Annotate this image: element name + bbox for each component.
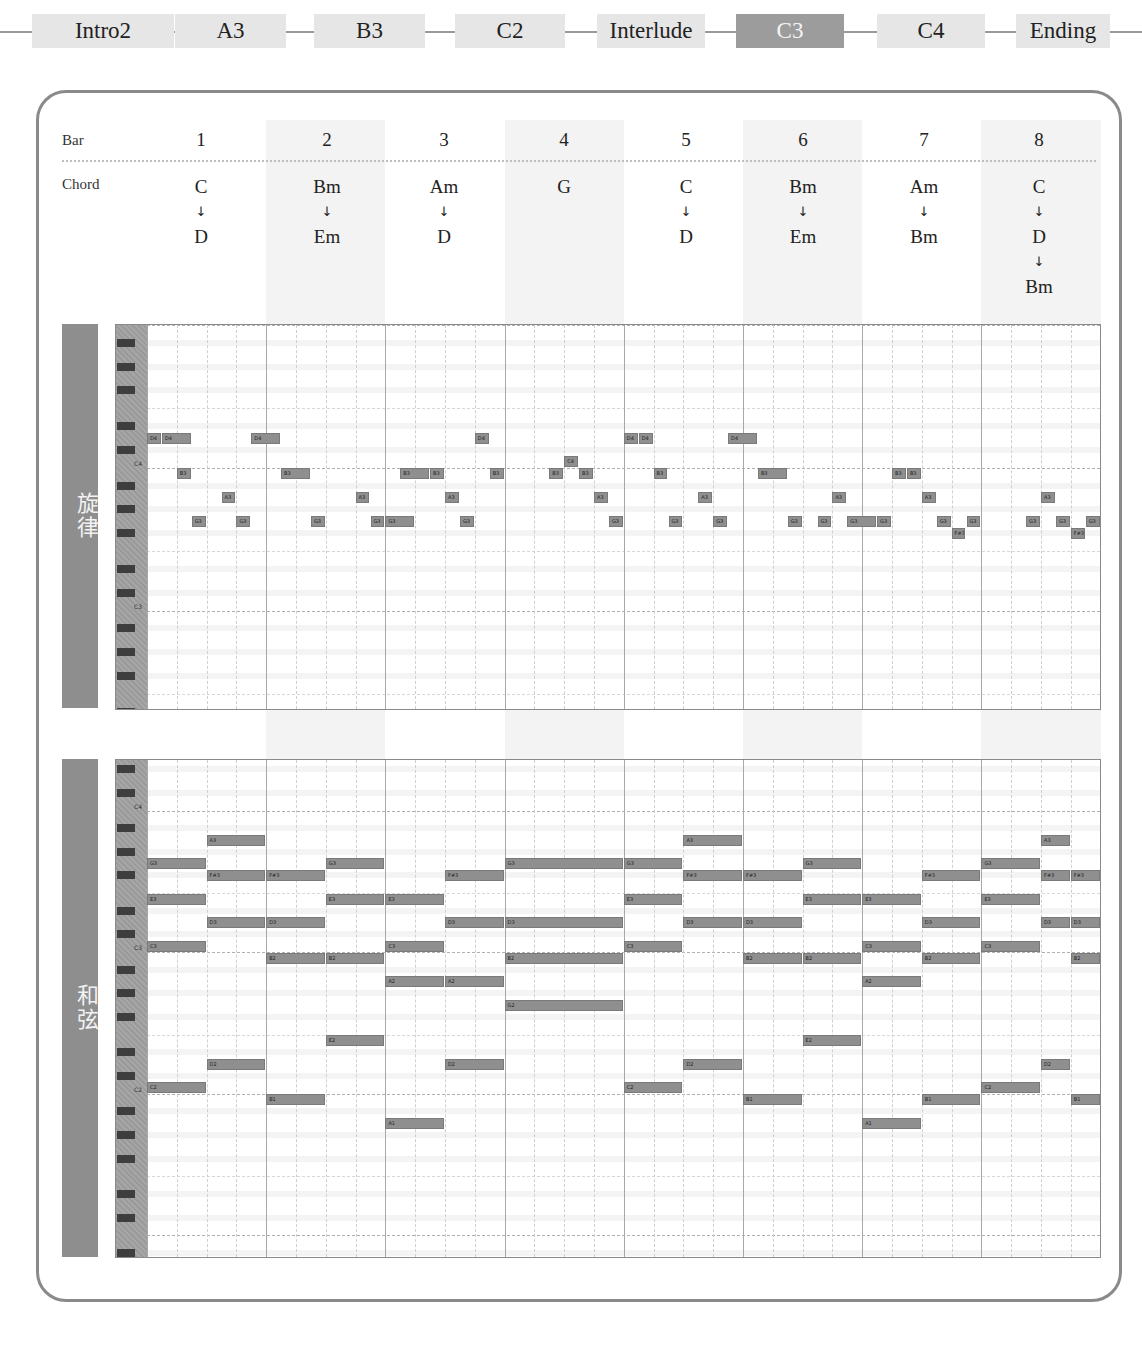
note-block[interactable]: B3 (549, 468, 563, 479)
note-block[interactable]: C2 (981, 1082, 1040, 1093)
note-block[interactable]: B3 (490, 468, 504, 479)
note-block[interactable]: E3 (326, 894, 385, 905)
note-block[interactable]: G3 (460, 516, 474, 527)
note-block[interactable]: E2 (803, 1035, 862, 1046)
note-block[interactable]: E3 (624, 894, 683, 905)
note-block[interactable]: F#3 (266, 870, 325, 881)
note-block[interactable]: A3 (683, 835, 742, 846)
note-block[interactable]: C3 (981, 941, 1040, 952)
note-block[interactable]: F#3 (1071, 870, 1100, 881)
note-block[interactable]: B2 (743, 953, 802, 964)
note-block[interactable]: D4 (162, 433, 191, 444)
note-block[interactable]: D4 (147, 433, 161, 444)
note-block[interactable]: F#3 (1071, 528, 1085, 539)
note-block[interactable]: B2 (1071, 953, 1100, 964)
section-c4[interactable]: C4 (877, 14, 985, 48)
note-block[interactable]: B3 (892, 468, 906, 479)
note-block[interactable]: G3 (1026, 516, 1040, 527)
note-block[interactable]: A3 (1041, 492, 1055, 503)
note-block[interactable]: D4 (624, 433, 638, 444)
note-block[interactable]: G3 (818, 516, 832, 527)
note-block[interactable]: B1 (266, 1094, 325, 1105)
note-block[interactable]: A3 (207, 835, 266, 846)
note-block[interactable]: B3 (400, 468, 429, 479)
note-block[interactable]: D2 (445, 1059, 504, 1070)
note-block[interactable]: G3 (713, 516, 727, 527)
section-intro2[interactable]: Intro2 (32, 14, 174, 48)
note-block[interactable]: G3 (192, 516, 206, 527)
note-block[interactable]: B1 (922, 1094, 981, 1105)
note-block[interactable]: G3 (385, 516, 414, 527)
note-block[interactable]: C4 (564, 456, 578, 467)
note-block[interactable]: F#3 (743, 870, 802, 881)
note-block[interactable]: B3 (281, 468, 310, 479)
note-block[interactable]: D2 (683, 1059, 742, 1070)
note-block[interactable]: A3 (698, 492, 712, 503)
note-block[interactable]: C3 (624, 941, 683, 952)
note-block[interactable]: B1 (743, 1094, 802, 1105)
note-block[interactable]: D3 (922, 917, 981, 928)
note-block[interactable]: F#3 (952, 528, 966, 539)
note-block[interactable]: A1 (385, 1118, 444, 1129)
note-block[interactable]: G3 (311, 516, 325, 527)
note-block[interactable]: G3 (788, 516, 802, 527)
note-block[interactable]: B2 (922, 953, 981, 964)
note-block[interactable]: G3 (803, 858, 862, 869)
note-block[interactable]: D2 (207, 1059, 266, 1070)
note-block[interactable]: B2 (505, 953, 623, 964)
note-block[interactable]: E3 (981, 894, 1040, 905)
section-c3[interactable]: C3 (736, 14, 844, 48)
note-block[interactable]: B3 (758, 468, 787, 479)
section-c2[interactable]: C2 (455, 14, 565, 48)
note-block[interactable]: A1 (862, 1118, 921, 1129)
note-block[interactable]: D3 (505, 917, 623, 928)
note-block[interactable]: G3 (326, 858, 385, 869)
section-b3[interactable]: B3 (314, 14, 425, 48)
note-block[interactable]: D3 (1041, 917, 1070, 928)
note-block[interactable]: A2 (445, 976, 504, 987)
note-block[interactable]: B3 (579, 468, 593, 479)
note-block[interactable]: A3 (922, 492, 936, 503)
note-block[interactable]: B2 (266, 953, 325, 964)
note-block[interactable]: G3 (1086, 516, 1100, 527)
section-interlude[interactable]: Interlude (597, 14, 705, 48)
note-block[interactable]: A3 (594, 492, 608, 503)
note-block[interactable]: D3 (207, 917, 266, 928)
note-block[interactable]: G3 (609, 516, 623, 527)
note-block[interactable]: B3 (430, 468, 444, 479)
note-block[interactable]: G3 (669, 516, 683, 527)
note-block[interactable]: G3 (624, 858, 683, 869)
note-block[interactable]: E2 (326, 1035, 385, 1046)
note-block[interactable]: A3 (445, 492, 459, 503)
note-block[interactable]: G3 (847, 516, 876, 527)
note-block[interactable]: E3 (862, 894, 921, 905)
note-block[interactable]: D4 (728, 433, 757, 444)
section-ending[interactable]: Ending (1016, 14, 1110, 48)
note-block[interactable]: G3 (147, 858, 206, 869)
note-block[interactable]: G3 (371, 516, 385, 527)
note-block[interactable]: B3 (907, 468, 921, 479)
note-block[interactable]: D4 (639, 433, 653, 444)
note-block[interactable]: C2 (624, 1082, 683, 1093)
note-block[interactable]: B2 (326, 953, 385, 964)
note-block[interactable]: D4 (475, 433, 489, 444)
note-block[interactable]: F#3 (1041, 870, 1070, 881)
note-block[interactable]: D3 (1071, 917, 1100, 928)
note-block[interactable]: D2 (1041, 1059, 1070, 1070)
note-block[interactable]: F#3 (922, 870, 981, 881)
note-block[interactable]: A3 (356, 492, 370, 503)
note-block[interactable]: C2 (147, 1082, 206, 1093)
note-block[interactable]: B1 (1071, 1094, 1100, 1105)
note-block[interactable]: G3 (967, 516, 981, 527)
note-block[interactable]: C3 (147, 941, 206, 952)
note-block[interactable]: E3 (803, 894, 862, 905)
note-block[interactable]: G3 (505, 858, 623, 869)
note-block[interactable]: G3 (877, 516, 891, 527)
note-block[interactable]: G2 (505, 1000, 623, 1011)
note-block[interactable]: A3 (832, 492, 846, 503)
note-block[interactable]: A3 (1041, 835, 1070, 846)
note-block[interactable]: C3 (862, 941, 921, 952)
note-block[interactable]: D3 (743, 917, 802, 928)
note-block[interactable]: A3 (222, 492, 236, 503)
note-block[interactable]: F#3 (445, 870, 504, 881)
